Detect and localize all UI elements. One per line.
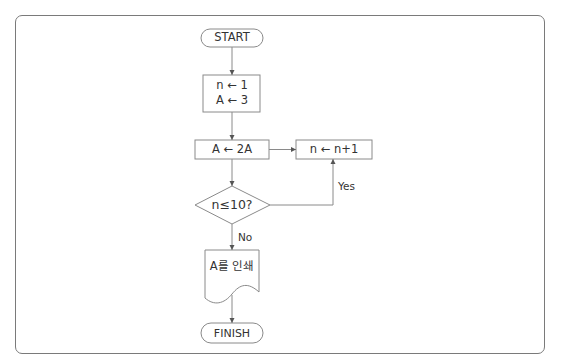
output-document-shape xyxy=(205,250,259,303)
no-label: No xyxy=(238,232,252,243)
init-line1: n ← 1 xyxy=(216,80,248,92)
finish-label: FINISH xyxy=(214,328,250,339)
flowchart-canvas xyxy=(0,0,561,362)
init-line2: A ← 3 xyxy=(216,95,248,107)
yes-label: Yes xyxy=(338,181,355,192)
decision-label: n≤10? xyxy=(212,199,253,212)
increment-label: n ← n+1 xyxy=(310,144,358,156)
double-label: A ← 2A xyxy=(212,144,252,156)
connector-decision-yes xyxy=(270,159,333,205)
start-label: START xyxy=(214,32,249,44)
output-label: A를 인쇄 xyxy=(210,261,255,273)
